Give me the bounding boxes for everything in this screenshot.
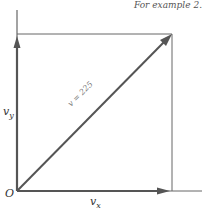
vy-label: vy [3,105,14,120]
vy-arrowhead-icon [14,36,21,48]
origin-label: O [5,187,14,200]
vy-label-sub: y [9,111,14,120]
vector-diagram [0,0,202,210]
vx-label: vx [90,195,101,210]
vx-arrowhead-icon [157,188,170,195]
vx-label-sub: x [96,201,101,210]
resultant-vector [17,40,166,191]
